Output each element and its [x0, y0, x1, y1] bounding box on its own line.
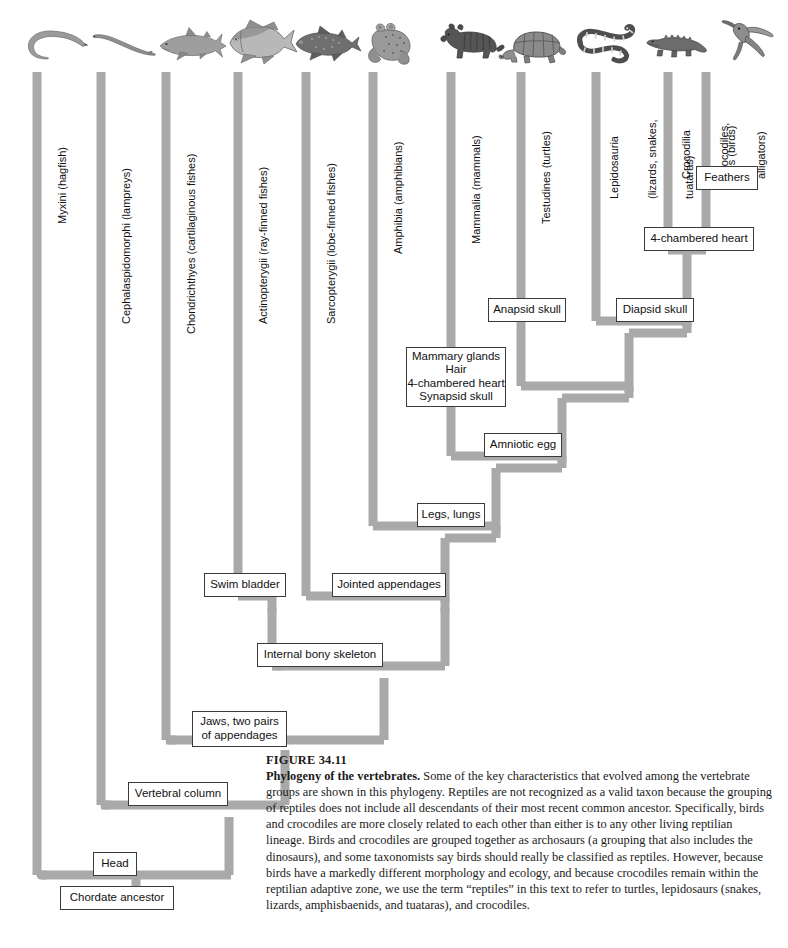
taxon-label-amphibia: Amphibia (amphibians) [367, 74, 430, 254]
taxon-line: Lepidosauria [608, 74, 621, 199]
character-line: Internal bony skeleton [264, 648, 377, 662]
taxon-label-testudines: Testudines (turtles) [515, 74, 578, 224]
character-line: 4-chambered heart [650, 232, 747, 246]
character-box-internal-bony-skeleton: Internal bony skeleton [257, 643, 383, 667]
character-line: Mammary glands [412, 350, 500, 364]
taxon-line: Amphibia (amphibians) [392, 74, 405, 254]
character-box-amniotic-egg: Amniotic egg [484, 433, 562, 457]
character-line: Synapsid skull [419, 390, 493, 404]
character-line: Chordate ancestor [70, 891, 165, 905]
character-box-anapsid-skull: Anapsid skull [488, 298, 566, 322]
character-box-head: Head [93, 852, 137, 876]
character-box-diapsid-skull: Diapsid skull [616, 298, 694, 322]
character-line: Hair [445, 363, 466, 377]
character-box-legs-lungs: Legs, lungs [417, 503, 485, 527]
taxon-line: Sarcopterygii (lobe-finned fishes) [325, 74, 338, 324]
figure-number: FIGURE 34.11 [266, 752, 774, 768]
character-box-jaws-two-pairs-of-appendages: Jaws, two pairs of appendages [192, 711, 287, 747]
character-line: Diapsid skull [623, 303, 688, 317]
character-box-vertebral-column: Vertebral column [128, 782, 228, 806]
taxon-line: Chondrichthyes (cartilaginous fishes) [185, 74, 198, 334]
character-box-4-chambered-heart: 4-chambered heart [644, 227, 754, 251]
taxon-label-actinopterygii: Actinopterygii (ray-finned fishes) [232, 74, 295, 324]
taxon-label-sarcopterygii: Sarcopterygii (lobe-finned fishes) [300, 74, 363, 324]
character-box-mammal-characters: Mammary glands Hair 4-chambered heart Sy… [406, 347, 506, 407]
character-line: Head [101, 857, 129, 871]
figure-caption: FIGURE 34.11 Phylogeny of the vertebrate… [266, 752, 774, 913]
taxon-label-myxini: Myxini (hagfish) [31, 74, 94, 224]
taxon-label-chondrichthyes: Chondrichthyes (cartilaginous fishes) [160, 74, 223, 334]
taxon-line: Actinopterygii (ray-finned fishes) [257, 74, 270, 324]
figure-body: Some of the key characteristics that evo… [266, 769, 772, 912]
figure-title: Phylogeny of the vertebrates. [266, 769, 420, 783]
character-line: Anapsid skull [493, 303, 561, 317]
taxon-line: Testudines (turtles) [540, 74, 553, 224]
character-line: Amniotic egg [490, 438, 556, 452]
character-line: Jaws, two pairs [200, 715, 279, 729]
character-line: of appendages [201, 729, 277, 743]
character-line: Jointed appendages [337, 578, 441, 592]
taxon-label-mammalia: Mammalia (mammals) [445, 74, 508, 244]
character-box-swim-bladder: Swim bladder [204, 573, 286, 597]
figure-34-11: Myxini (hagfish) Cephalaspidomorphi (lam… [0, 0, 788, 948]
character-line: Vertebral column [135, 787, 221, 801]
character-box-feathers: Feathers [696, 166, 758, 190]
character-line: Legs, lungs [422, 508, 481, 522]
character-line: Swim bladder [210, 578, 280, 592]
character-line: Feathers [704, 171, 749, 185]
taxon-label-cephalaspidomorphi: Cephalaspidomorphi (lampreys) [95, 74, 158, 324]
character-box-jointed-appendages: Jointed appendages [332, 573, 446, 597]
taxon-line: Mammalia (mammals) [470, 74, 483, 244]
character-line: 4-chambered heart [407, 377, 504, 391]
character-box-chordate-ancestor: Chordate ancestor [60, 886, 174, 910]
taxon-line: Myxini (hagfish) [56, 74, 69, 224]
taxon-line: Cephalaspidomorphi (lampreys) [120, 74, 133, 324]
taxon-line: Crocodilia [680, 74, 693, 179]
